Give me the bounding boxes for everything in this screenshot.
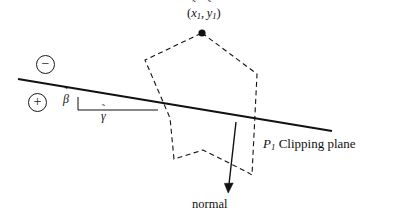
coordinate-separator: ,: [201, 6, 204, 20]
circled-minus-icon: −: [36, 55, 55, 74]
clipping-plane-label: P1 Clipping plane: [263, 137, 356, 152]
circled-plus-icon: +: [28, 93, 47, 112]
clipping-plane-diagram: (˜x1, ˜y1) P1 Clipping plane normal ˜β ˜…: [0, 0, 394, 221]
gamma-symbol-group: ˜γ: [101, 110, 106, 122]
normal-label: normal: [192, 198, 227, 211]
vertex-coordinate-label: (˜x1, ˜y1): [187, 7, 221, 21]
plane-subscript: 1: [271, 142, 275, 152]
normal-arrowhead: [224, 183, 233, 193]
polygon-vertex-dot: [198, 29, 205, 36]
x-tilde-symbol: ˜x: [191, 7, 197, 20]
gamma-length-label: ˜γ: [101, 110, 106, 122]
plane-symbol: P: [263, 136, 271, 151]
diagram-canvas: [0, 0, 394, 221]
x-tilde-accent: ˜: [192, 0, 196, 11]
beta-tilde-accent: ˜: [64, 87, 67, 97]
angle-triangle: [78, 97, 158, 110]
gamma-tilde-accent: ˜: [102, 104, 105, 114]
beta-symbol-group: ˜β: [63, 93, 69, 105]
beta-angle-label: ˜β: [63, 93, 69, 105]
y-tilde-accent: ˜: [208, 0, 212, 11]
normal-arrow-shaft: [229, 122, 236, 186]
y-tilde-symbol: ˜y: [207, 7, 213, 20]
close-paren: ): [216, 6, 220, 20]
plus-glyph: +: [34, 95, 42, 109]
clipping-plane-text: Clipping plane: [279, 136, 356, 151]
clipped-polygon-outline: [145, 33, 257, 175]
minus-glyph: −: [42, 57, 50, 71]
